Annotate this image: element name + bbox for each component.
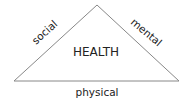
bottom-side-label: physical xyxy=(75,86,118,98)
health-triangle-diagram: HEALTH social mental physical xyxy=(0,0,189,105)
triangle-left-side xyxy=(14,5,97,81)
left-side-label: social xyxy=(29,18,59,47)
right-side-label: mental xyxy=(129,16,165,49)
center-label: HEALTH xyxy=(73,45,119,59)
